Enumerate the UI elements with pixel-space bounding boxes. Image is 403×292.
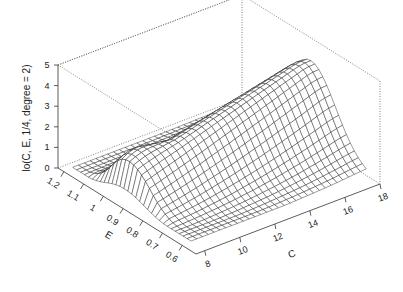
z-tick-label: 5 bbox=[44, 60, 49, 70]
c-tick-label: 10 bbox=[236, 244, 249, 257]
surface-plot-svg: 012345 0.60.70.80.911.11.2 81012141618 l… bbox=[0, 0, 403, 292]
z-axis: 012345 bbox=[44, 60, 58, 173]
surface-plot: 012345 0.60.70.80.911.11.2 81012141618 l… bbox=[0, 0, 403, 292]
c-tick-label: 16 bbox=[342, 204, 355, 217]
z-tick-label: 1 bbox=[44, 142, 49, 152]
e-tick-label: 0.6 bbox=[164, 249, 180, 264]
e-tick-label: 0.9 bbox=[105, 212, 121, 227]
c-axis-label: C bbox=[287, 247, 298, 260]
surface-mesh bbox=[73, 59, 367, 241]
e-tick-label: 0.7 bbox=[144, 237, 160, 252]
e-tick-label: 0.8 bbox=[124, 225, 140, 240]
z-tick-label: 4 bbox=[44, 81, 49, 91]
c-tick-label: 14 bbox=[306, 217, 319, 230]
z-axis-label: lo(C, E, 1/4, degree = 2) bbox=[21, 64, 32, 171]
e-axis-label: E bbox=[103, 229, 115, 242]
e-tick-label: 1.2 bbox=[46, 176, 62, 191]
z-tick-label: 2 bbox=[44, 122, 49, 132]
c-tick-label: 12 bbox=[271, 231, 284, 244]
c-tick-label: 18 bbox=[377, 191, 390, 204]
e-tick-label: 1 bbox=[88, 202, 98, 213]
z-tick-label: 3 bbox=[44, 101, 49, 111]
z-tick-label: 0 bbox=[44, 163, 49, 173]
c-tick-label: 8 bbox=[204, 258, 212, 269]
e-tick-label: 1.1 bbox=[65, 188, 81, 203]
